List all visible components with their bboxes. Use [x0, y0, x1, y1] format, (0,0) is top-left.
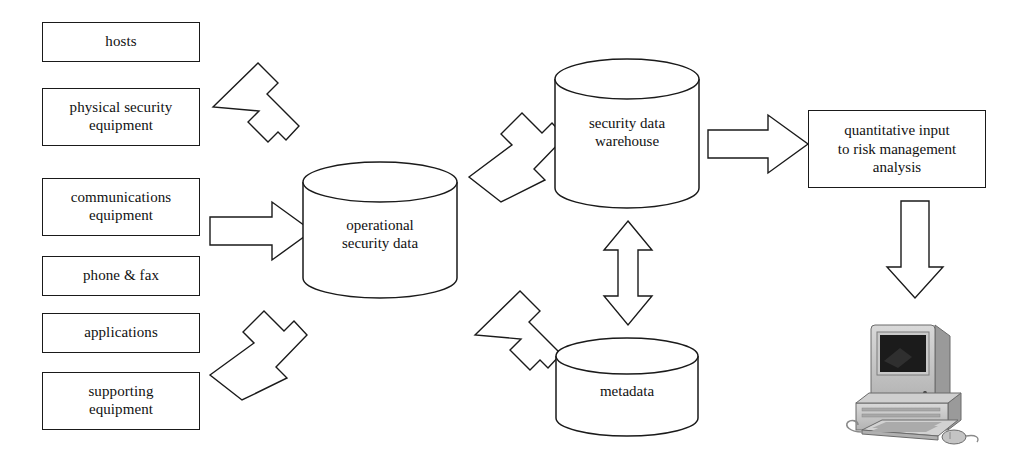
- source-box-communications-equipment-label: communications equipment: [67, 189, 176, 224]
- arrow-sources-top-to-operational: [200, 55, 316, 155]
- source-box-supporting-equipment[interactable]: supporting equipment: [42, 372, 200, 430]
- architecture-diagram: hosts physical security equipment commun…: [0, 0, 1019, 459]
- cylinder-operational-security-data[interactable]: operational security data: [300, 160, 460, 300]
- cylinder-metadata[interactable]: metadata: [553, 336, 701, 440]
- source-box-supporting-equipment-label: supporting equipment: [84, 383, 157, 418]
- cylinder-security-data-warehouse[interactable]: security data warehouse: [552, 57, 702, 212]
- source-box-hosts[interactable]: hosts: [42, 22, 200, 62]
- source-box-applications[interactable]: applications: [42, 313, 200, 353]
- arrow-sources-bottom-to-operational: [202, 305, 318, 405]
- source-box-communications-equipment[interactable]: communications equipment: [42, 178, 200, 236]
- source-box-physical-security-equipment-label: physical security equipment: [66, 99, 177, 134]
- output-box-quantitative-input-label: quantitative input to risk management an…: [838, 121, 956, 177]
- source-box-applications-label: applications: [80, 324, 162, 342]
- arrow-warehouse-to-output: [706, 113, 812, 175]
- output-box-quantitative-input[interactable]: quantitative input to risk management an…: [808, 110, 986, 188]
- computer-icon: [838, 308, 988, 448]
- source-box-physical-security-equipment[interactable]: physical security equipment: [42, 88, 200, 146]
- arrow-warehouse-metadata-bidirectional: [602, 218, 654, 328]
- source-box-phone-fax-label: phone & fax: [79, 267, 163, 285]
- source-box-hosts-label: hosts: [101, 33, 140, 51]
- source-box-phone-fax[interactable]: phone & fax: [42, 256, 200, 296]
- arrow-output-to-computer: [884, 199, 946, 301]
